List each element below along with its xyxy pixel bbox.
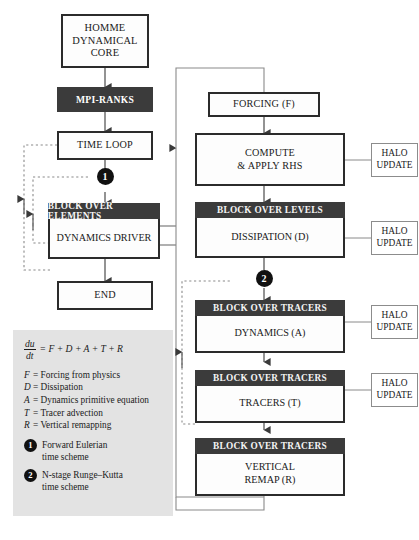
homme-dynamical-core-node[interactable]: HOMME DYNAMICAL CORE: [61, 14, 149, 68]
dynamics-a-label: DYNAMICS (A): [197, 316, 343, 351]
scheme-two-label: N-stage Runge–Kutta time scheme: [42, 469, 123, 493]
scheme-item: 1 Forward Eulerian time scheme: [24, 439, 163, 463]
legend-equation: du dt = F + D + A + T + R: [24, 339, 163, 361]
block-over-levels[interactable]: BLOCK OVER LEVELS DISSIPATION (D): [195, 202, 345, 258]
legend-definitions: F= Forcing from physics D= Dissipation A…: [24, 369, 163, 432]
block-over-tracers-tracers-header: BLOCK OVER TRACERS: [195, 370, 345, 386]
halo-update-label: HALO UPDATE: [377, 148, 413, 172]
marker-two-right: 2: [256, 270, 273, 287]
halo-update-box[interactable]: HALO UPDATE: [371, 143, 418, 177]
equation-denominator: dt: [25, 350, 34, 361]
equation-rhs: = F + D + A + T + R: [40, 343, 123, 356]
definition-item: D= Dissipation: [24, 381, 163, 393]
scheme-one-label: Forward Eulerian time scheme: [42, 439, 107, 463]
tracers-t-label: TRACERS (T): [197, 386, 343, 421]
vertical-remap-label: VERTICAL REMAP (R): [197, 454, 343, 494]
end-label: END: [91, 289, 119, 301]
halo-update-box[interactable]: HALO UPDATE: [371, 221, 418, 255]
time-loop-label: TIME LOOP: [74, 139, 136, 151]
block-over-tracers-dynamics-header: BLOCK OVER TRACERS: [195, 300, 345, 316]
block-over-tracers-tracers[interactable]: BLOCK OVER TRACERS TRACERS (T): [195, 370, 345, 423]
definition-item: R= Vertical remapping: [24, 419, 163, 431]
halo-update-box[interactable]: HALO UPDATE: [371, 305, 418, 339]
block-over-elements[interactable]: BLOCK OVER ELEMENTS DYNAMICS DRIVER: [48, 203, 160, 259]
forcing-node[interactable]: FORCING (F): [208, 92, 320, 117]
end-node[interactable]: END: [57, 281, 153, 310]
dynamics-driver-label: DYNAMICS DRIVER: [50, 219, 158, 257]
compute-apply-rhs-node[interactable]: COMPUTE & APPLY RHS: [195, 133, 345, 186]
marker-one-left: 1: [97, 168, 114, 185]
mpi-ranks-node[interactable]: MPI-RANKS: [57, 87, 153, 112]
compute-apply-rhs-label: COMPUTE & APPLY RHS: [234, 147, 305, 172]
block-over-tracers-remap[interactable]: BLOCK OVER TRACERS VERTICAL REMAP (R): [195, 438, 345, 496]
definition-item: F= Forcing from physics: [24, 369, 163, 381]
halo-update-label: HALO UPDATE: [377, 378, 413, 402]
flowchart-canvas: HOMME DYNAMICAL CORE MPI-RANKS TIME LOOP…: [0, 0, 419, 540]
scheme-marker-one: 1: [24, 439, 37, 452]
dissipation-label: DISSIPATION (D): [197, 218, 343, 256]
legend-panel: du dt = F + D + A + T + R F= Forcing fro…: [13, 330, 173, 516]
mpi-ranks-label: MPI-RANKS: [73, 94, 137, 106]
definition-item: A= Dynamics primitive equation: [24, 394, 163, 406]
block-over-elements-header: BLOCK OVER ELEMENTS: [48, 203, 160, 219]
block-over-tracers-remap-header: BLOCK OVER TRACERS: [195, 438, 345, 454]
block-over-levels-header: BLOCK OVER LEVELS: [195, 202, 345, 218]
scheme-item: 2 N-stage Runge–Kutta time scheme: [24, 469, 163, 493]
halo-update-label: HALO UPDATE: [377, 310, 413, 334]
marker-two-label: 2: [262, 274, 267, 284]
marker-one-label: 1: [103, 172, 108, 182]
scheme-marker-two: 2: [24, 469, 37, 482]
derivative-fraction: du dt: [24, 339, 36, 361]
time-loop-node[interactable]: TIME LOOP: [57, 131, 153, 160]
legend-schemes: 1 Forward Eulerian time scheme 2 N-stage…: [24, 439, 163, 493]
equation-numerator: du: [24, 339, 36, 350]
block-over-tracers-dynamics[interactable]: BLOCK OVER TRACERS DYNAMICS (A): [195, 300, 345, 353]
halo-update-box[interactable]: HALO UPDATE: [371, 373, 418, 407]
homme-dynamical-core-label: HOMME DYNAMICAL CORE: [69, 22, 140, 60]
forcing-label: FORCING (F): [230, 98, 298, 110]
halo-update-label: HALO UPDATE: [377, 226, 413, 250]
definition-item: T= Tracer advection: [24, 407, 163, 419]
